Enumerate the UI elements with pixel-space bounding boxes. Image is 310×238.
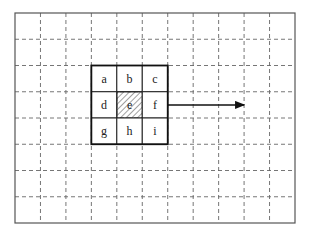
cell-label: g: [101, 124, 107, 138]
cell-label: a: [101, 72, 107, 86]
cell-label: b: [127, 72, 133, 86]
cell-label: c: [152, 72, 157, 86]
cell-label: d: [101, 98, 107, 112]
cell-label: f: [153, 98, 157, 112]
cell-label: e: [127, 98, 132, 112]
cell-label: h: [127, 124, 133, 138]
kernel-window: abcdefghi: [91, 66, 167, 145]
sliding-window-diagram: abcdefghi: [0, 0, 310, 238]
